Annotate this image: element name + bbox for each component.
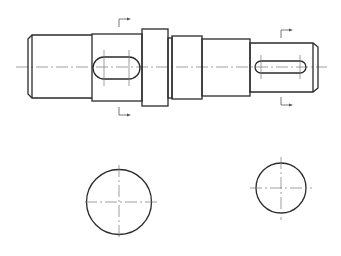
keyway-left	[93, 50, 140, 86]
section-marker-right	[281, 29, 293, 107]
keyed-section-left	[92, 34, 142, 101]
section-view-left	[85, 165, 158, 240]
step-section	[202, 39, 250, 96]
collar	[142, 29, 168, 106]
left-journal	[28, 35, 92, 98]
middle-journal	[172, 36, 202, 99]
section-view-right	[250, 157, 312, 220]
shaft-drawing: Stepped shaft with keyways — front view …	[0, 0, 341, 256]
keyed-section-right	[250, 43, 318, 92]
